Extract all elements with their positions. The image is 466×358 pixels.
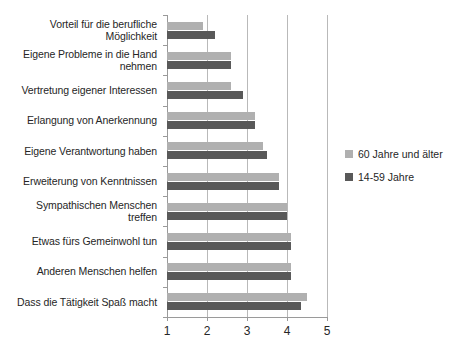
legend-entry: 60 Jahre und älter <box>345 148 463 160</box>
value-tick-label: 5 <box>324 324 331 338</box>
category-tickmark <box>163 15 167 16</box>
category-tickmark <box>163 317 167 318</box>
bars-layer <box>167 15 327 317</box>
tickmark <box>167 317 168 321</box>
category-label: Dass die Tätigkeit Spaß macht <box>6 287 164 317</box>
bar-group <box>167 196 327 226</box>
bar <box>167 182 279 190</box>
legend-entry: 14-59 Jahre <box>345 171 463 183</box>
bar-group <box>167 287 327 317</box>
bar-group <box>167 45 327 75</box>
bar <box>167 212 287 220</box>
value-axis-tick-labels: 12345 <box>167 324 327 342</box>
tickmark <box>247 317 248 321</box>
value-tick-label: 4 <box>284 324 291 338</box>
plot-area <box>167 15 327 317</box>
chart-legend: 60 Jahre und älter14-59 Jahre <box>345 148 463 194</box>
category-label: Etwas fürs Gemeinwohl tun <box>6 226 164 256</box>
category-label: Vorteil für die berufliche Möglichkeit <box>6 15 164 45</box>
legend-label: 14-59 Jahre <box>358 171 414 183</box>
category-label: Eigene Verantwortung haben <box>6 136 164 166</box>
bar <box>167 242 291 250</box>
category-tickmark <box>163 166 167 167</box>
legend-swatch-icon <box>345 173 353 181</box>
category-tickmark <box>163 136 167 137</box>
bar-group <box>167 226 327 256</box>
tickmark <box>287 317 288 321</box>
category-tickmark <box>163 226 167 227</box>
bar <box>167 82 231 90</box>
bar <box>167 233 291 241</box>
category-tickmark <box>163 287 167 288</box>
category-label: Anderen Menschen helfen <box>6 257 164 287</box>
category-label: Sympathischen Menschen treffen <box>6 196 164 226</box>
bar <box>167 173 279 181</box>
bar <box>167 302 301 310</box>
bar-group <box>167 257 327 287</box>
category-tickmark <box>163 106 167 107</box>
category-tickmark <box>163 196 167 197</box>
category-label: Erlangung von Anerkennung <box>6 106 164 136</box>
category-tickmark <box>163 45 167 46</box>
category-tickmark <box>163 75 167 76</box>
bar-group <box>167 75 327 105</box>
category-axis: Vorteil für die berufliche MöglichkeitEi… <box>6 15 164 317</box>
legend-label: 60 Jahre und älter <box>358 148 443 160</box>
bar <box>167 22 203 30</box>
value-tick-label: 1 <box>164 324 171 338</box>
bar <box>167 151 267 159</box>
bar <box>167 142 263 150</box>
value-tick-label: 3 <box>244 324 251 338</box>
tickmark <box>207 317 208 321</box>
bar <box>167 203 287 211</box>
bar <box>167 61 231 69</box>
bar <box>167 272 291 280</box>
category-label: Erweiterung von Kenntnissen <box>6 166 164 196</box>
bar <box>167 263 291 271</box>
category-tickmark <box>163 257 167 258</box>
tickmark <box>327 317 328 321</box>
bar-group <box>167 166 327 196</box>
bar-group <box>167 136 327 166</box>
bar-group <box>167 106 327 136</box>
bar-group <box>167 15 327 45</box>
bar <box>167 52 231 60</box>
category-label: Vertretung eigener Interessen <box>6 75 164 105</box>
category-label: Eigene Probleme in die Hand nehmen <box>6 45 164 75</box>
legend-swatch-icon <box>345 150 353 158</box>
value-tick-label: 2 <box>204 324 211 338</box>
bar <box>167 31 215 39</box>
gridline <box>327 15 328 317</box>
bar <box>167 112 255 120</box>
bar <box>167 91 243 99</box>
bar <box>167 293 307 301</box>
bar <box>167 121 255 129</box>
bar-chart: Vorteil für die berufliche MöglichkeitEi… <box>0 0 466 358</box>
